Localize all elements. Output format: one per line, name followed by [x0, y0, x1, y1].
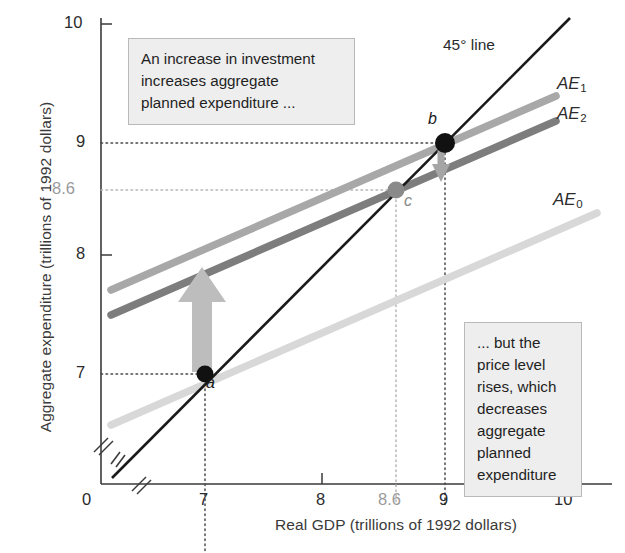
data-point-label-c: c — [404, 192, 412, 210]
curve-label-ae1-subscript: 1 — [580, 82, 586, 94]
curve-label-ae0-text: AE — [553, 190, 576, 209]
x-axis-title: Real GDP (trillions of 1992 dollars) — [275, 516, 517, 534]
x-tick-label-8-6: 8.6 — [378, 490, 401, 509]
curve-label-ae0: AE0 — [553, 190, 582, 210]
data-point-label-a: a — [206, 374, 215, 392]
x-tick-label-8: 8 — [316, 490, 325, 509]
curve-label-ae1: AE1 — [557, 74, 586, 94]
annotation-callout-price-level: ... but the price level rises, which dec… — [464, 322, 582, 497]
data-point-c — [388, 182, 405, 199]
data-point-b — [435, 133, 455, 153]
curve-label-ae2: AE2 — [557, 104, 586, 124]
curve-label-ae2-text: AE — [557, 104, 580, 123]
x-tick-label-9: 9 — [439, 490, 448, 509]
chart-figure: Aggregate expenditure (trillions of 1992… — [0, 0, 625, 553]
y-tick-label-7: 7 — [76, 363, 85, 382]
curve-ae2 — [111, 121, 556, 315]
curve-label-ae2-subscript: 2 — [580, 112, 586, 124]
x-tick-label-7: 7 — [199, 490, 208, 509]
x-tick-label-0: 0 — [82, 490, 91, 509]
curve-label-ae1-text: AE — [557, 74, 580, 93]
y-tick-label-8-6: 8.6 — [52, 179, 75, 198]
curve-label-ae0-subscript: 0 — [576, 198, 582, 210]
y-axis-title: Aggregate expenditure (trillions of 1992… — [37, 27, 55, 507]
y-tick-label-10: 10 — [64, 13, 82, 32]
y-tick-label-9: 9 — [76, 132, 85, 151]
y-tick-label-8: 8 — [76, 244, 85, 263]
annotation-callout-investment: An increase in investment increases aggr… — [128, 38, 355, 125]
curve-label-45-degree-line: 45° line — [443, 36, 495, 54]
y-axis-ticks — [101, 24, 112, 255]
data-point-label-b: b — [428, 110, 437, 128]
